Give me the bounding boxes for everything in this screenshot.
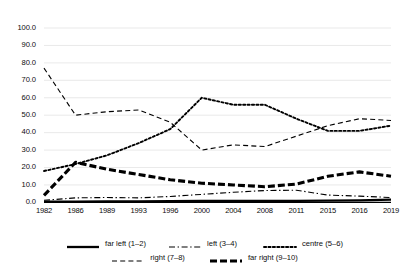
legend-key-centre-icon	[263, 238, 297, 248]
legend-item-right: right (7–8)	[111, 252, 185, 262]
legend-row-1: far left (1–2) left (3–4) centre (5–6)	[66, 238, 343, 248]
legend-label-right: right (7–8)	[150, 253, 185, 262]
series-lines	[44, 68, 391, 202]
y-tick-label: 60.0	[2, 94, 36, 102]
legend-key-left-icon	[168, 238, 202, 248]
x-tick-label: 2004	[218, 207, 248, 215]
y-tick-label: 80.0	[2, 59, 36, 67]
legend-label-centre: centre (5–6)	[302, 239, 343, 248]
legend-label-far-right: far right (9–10)	[248, 253, 298, 262]
legend-label-far-left: far left (1–2)	[105, 239, 146, 248]
y-tick-label: 20.0	[2, 163, 36, 171]
y-tick-label: 0.0	[2, 198, 36, 206]
x-tick-label: 2016	[344, 207, 374, 215]
x-tick-label: 1993	[124, 207, 154, 215]
series-line	[44, 200, 391, 202]
y-tick-label: 70.0	[2, 76, 36, 84]
chart-legend: far left (1–2) left (3–4) centre (5–6)	[0, 238, 409, 262]
y-tick-label: 40.0	[2, 128, 36, 136]
y-tick-label: 90.0	[2, 41, 36, 49]
x-tick-label: 1996	[155, 207, 185, 215]
legend-item-left: left (3–4)	[168, 238, 237, 248]
plot-area	[0, 0, 409, 278]
x-tick-label: 2008	[250, 207, 280, 215]
legend-item-far-left: far left (1–2)	[66, 238, 146, 248]
legend-key-far-left-icon	[66, 238, 100, 248]
legend-item-far-right: far right (9–10)	[209, 252, 298, 262]
x-tick-label: 1989	[92, 207, 122, 215]
series-line	[44, 98, 391, 171]
legend-item-centre: centre (5–6)	[263, 238, 343, 248]
line-chart: 100.090.080.070.060.050.040.030.020.010.…	[0, 0, 409, 278]
y-tick-label: 100.0	[2, 24, 36, 32]
legend-row-2: right (7–8) far right (9–10)	[111, 252, 297, 262]
x-tick-label: 2011	[281, 207, 311, 215]
series-line	[44, 190, 391, 200]
x-tick-label: 2019	[376, 207, 406, 215]
y-tick-label: 30.0	[2, 146, 36, 154]
x-tick-label: 2000	[187, 207, 217, 215]
legend-key-far-right-icon	[209, 252, 243, 262]
x-tick-label: 1982	[29, 207, 59, 215]
x-tick-label: 2015	[313, 207, 343, 215]
y-tick-label: 50.0	[2, 111, 36, 119]
legend-label-left: left (3–4)	[207, 239, 237, 248]
y-tick-label: 10.0	[2, 181, 36, 189]
legend-key-right-icon	[111, 252, 145, 262]
x-tick-label: 1986	[61, 207, 91, 215]
